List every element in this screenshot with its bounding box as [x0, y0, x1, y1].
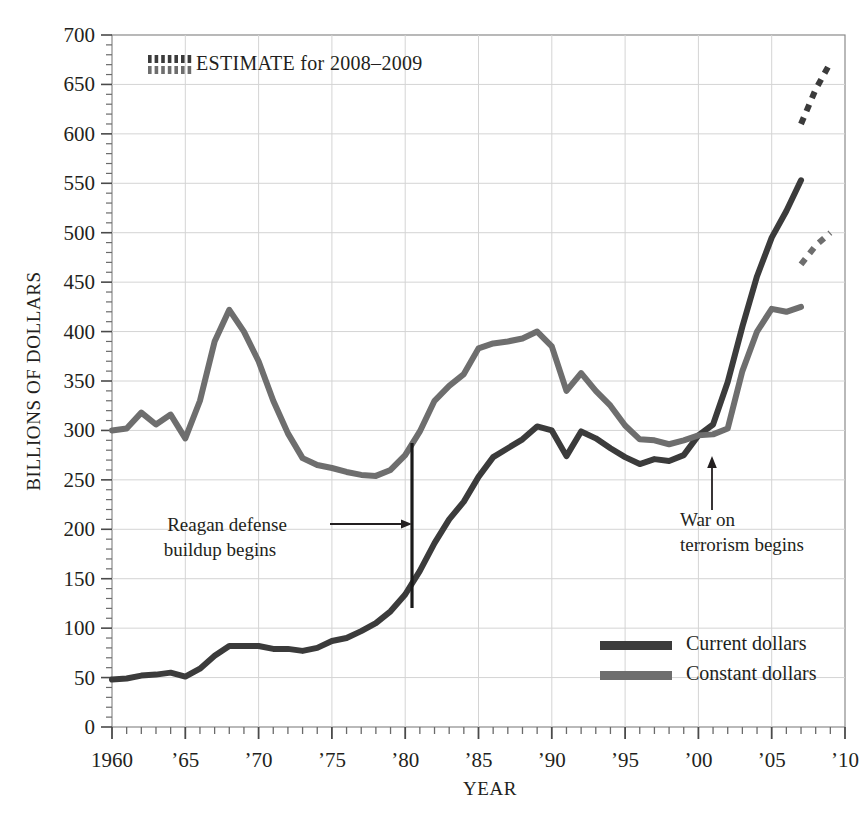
legend-swatch-constant-dollars: [600, 671, 672, 680]
y-axis-tick-label: 0: [85, 715, 96, 739]
terrorism-annotation-line1: War on: [680, 509, 735, 530]
x-axis-tick-label: ’90: [538, 748, 566, 772]
y-axis-tick-label: 350: [64, 369, 96, 393]
y-axis-tick-label: 250: [64, 468, 96, 492]
y-axis-tick-label: 650: [64, 72, 96, 96]
x-axis-tick-label: ’70: [245, 748, 273, 772]
y-axis-title: BILLIONS OF DOLLARS: [23, 271, 44, 490]
x-axis-tick-label: ’65: [171, 748, 199, 772]
estimate-dash: [188, 55, 192, 63]
x-axis-tick-label: ’85: [465, 748, 493, 772]
x-axis-tick-label: ’05: [758, 748, 786, 772]
reagan-annotation-line2: buildup begins: [164, 539, 276, 560]
estimate-dash: [155, 66, 159, 74]
estimate-dash: [174, 55, 178, 63]
estimate-dash: [174, 66, 178, 74]
estimate-dash: [181, 66, 185, 74]
y-axis-tick-label: 450: [64, 270, 96, 294]
estimate-dash: [181, 55, 185, 63]
y-axis-tick-label: 200: [64, 517, 96, 541]
legend-swatch-current-dollars: [600, 641, 672, 650]
estimate-dash: [168, 66, 172, 74]
y-axis-tick-label: 50: [74, 666, 95, 690]
x-axis-tick-label: ’75: [318, 748, 346, 772]
x-axis-tick-label: ’10: [831, 748, 859, 772]
x-axis-tick-label: ’80: [391, 748, 419, 772]
y-axis-tick-labels: 0501001502002503003504004505005506006507…: [64, 23, 96, 739]
estimate-dash: [148, 55, 152, 63]
estimate-dash: [155, 55, 159, 63]
estimate-dash: [161, 66, 165, 74]
estimate-dash: [148, 66, 152, 74]
legend-label-current-dollars: Current dollars: [686, 632, 807, 654]
x-axis-tick-label: ’95: [611, 748, 639, 772]
x-axis-tick-label: ’00: [684, 748, 712, 772]
terrorism-annotation-line2: terrorism begins: [680, 534, 804, 555]
legend-label-constant-dollars: Constant dollars: [686, 662, 817, 684]
x-axis-title: YEAR: [463, 778, 517, 799]
estimate-legend-label: ESTIMATE for 2008–2009: [196, 52, 423, 74]
estimate-dash: [188, 66, 192, 74]
y-axis-tick-label: 600: [64, 122, 96, 146]
defense-spending-chart: 0501001502002503003504004505005506006507…: [0, 0, 867, 820]
y-axis-tick-label: 700: [64, 23, 96, 47]
x-axis-tick-label: 1960: [91, 748, 133, 772]
y-axis-tick-label: 150: [64, 567, 96, 591]
y-axis-tick-label: 400: [64, 320, 96, 344]
y-axis-tick-label: 300: [64, 418, 96, 442]
estimate-dash: [161, 55, 165, 63]
reagan-annotation-line1: Reagan defense: [167, 514, 287, 535]
chart-svg: 0501001502002503003504004505005506006507…: [0, 0, 867, 820]
y-axis-tick-label: 550: [64, 171, 96, 195]
estimate-dash: [168, 55, 172, 63]
estimate-legend: ESTIMATE for 2008–2009: [148, 52, 423, 74]
y-axis-tick-label: 100: [64, 616, 96, 640]
y-axis-tick-label: 500: [64, 221, 96, 245]
